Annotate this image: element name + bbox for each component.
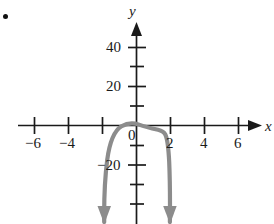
- x-tick-label--6: −6: [25, 136, 41, 151]
- x-tick-label-6: 6: [234, 136, 242, 151]
- y-tick-label-20: 20: [106, 79, 121, 94]
- curve-right-arrowhead: [163, 206, 177, 224]
- x-tick-label-4: 4: [200, 136, 208, 151]
- origin-label: 0: [128, 128, 136, 143]
- y-axis-arrowhead: [131, 22, 142, 36]
- y-tick-label--20: −20: [97, 158, 120, 173]
- coordinate-plane: [0, 0, 274, 224]
- curve-left-arrowhead: [98, 206, 112, 224]
- x-axis-arrowhead: [248, 120, 262, 131]
- graph-figure: y x −6 −4 2 4 6 40 20 −20 0: [0, 0, 274, 224]
- x-tick-label--4: −4: [59, 136, 75, 151]
- x-tick-label-2: 2: [166, 136, 174, 151]
- x-axis-label: x: [265, 119, 272, 134]
- y-tick-label-40: 40: [106, 40, 121, 55]
- y-axis-label: y: [129, 4, 136, 19]
